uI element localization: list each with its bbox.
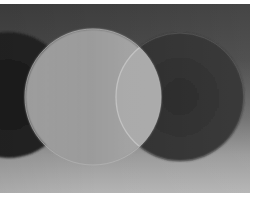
discs-illustration [0,4,250,193]
photo-frame [0,4,250,193]
